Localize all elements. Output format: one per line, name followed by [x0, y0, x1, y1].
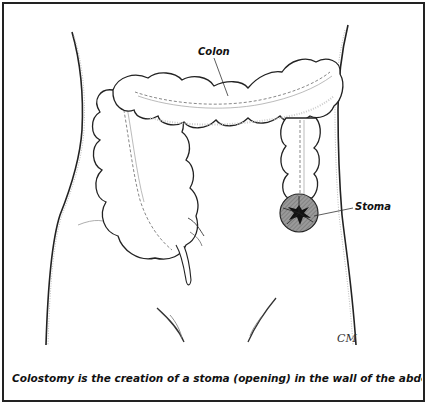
groin-line-left — [157, 308, 184, 342]
stoma-graphic — [280, 194, 318, 232]
descending-colon — [281, 118, 321, 198]
body-outline-left — [46, 32, 83, 345]
groin-line-right — [248, 298, 276, 342]
colon-label: Colon — [198, 46, 230, 57]
stoma-label: Stoma — [355, 201, 391, 212]
stoma-leader-line — [314, 208, 353, 216]
figure-caption: Colostomy is the creation of a stoma (op… — [12, 372, 422, 384]
artist-signature: CM — [337, 332, 357, 345]
